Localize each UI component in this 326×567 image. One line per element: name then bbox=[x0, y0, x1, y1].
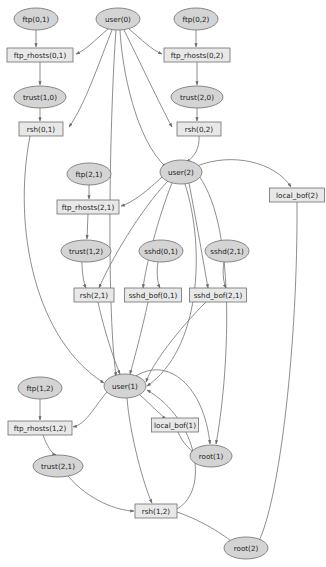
graph-edge bbox=[189, 183, 208, 288]
graph-node-trust_1_0[interactable]: trust(1,0) bbox=[14, 86, 66, 108]
graph-node-sshd_0_1[interactable]: sshd(0,1) bbox=[139, 240, 183, 262]
graph-node-ftp_2_1[interactable]: ftp(2,1) bbox=[67, 163, 111, 185]
node-label: sshd(2,1) bbox=[210, 247, 244, 256]
node-label: user(1) bbox=[112, 382, 138, 391]
graph-node-ftp_1_2[interactable]: ftp(1,2) bbox=[18, 377, 62, 399]
node-label: rsh(0,2) bbox=[185, 125, 213, 134]
graph-node-rsh_1_2[interactable]: rsh(1,2) bbox=[135, 504, 177, 518]
node-label: trust(1,2) bbox=[69, 247, 103, 256]
node-label: trust(2,1) bbox=[41, 462, 75, 471]
graph-node-local_bof_1[interactable]: local_bof(1) bbox=[152, 418, 199, 432]
graph-edge bbox=[68, 476, 134, 511]
graph-node-user_2[interactable]: user(2) bbox=[160, 160, 202, 184]
graph-edge bbox=[130, 302, 148, 374]
node-label: user(0) bbox=[105, 15, 131, 24]
graph-edge bbox=[82, 262, 86, 288]
node-label: ftp(1,2) bbox=[27, 384, 54, 393]
graph-edge bbox=[147, 184, 196, 386]
node-label: rsh(2,1) bbox=[80, 291, 108, 300]
graph-node-trust_1_2[interactable]: trust(1,2) bbox=[61, 240, 111, 262]
node-label: ftp_rhosts(1,2) bbox=[14, 424, 67, 433]
node-label: trust(2,0) bbox=[180, 93, 214, 102]
graph-node-trust_2_1[interactable]: trust(2,1) bbox=[33, 455, 83, 477]
graph-node-rsh_2_1[interactable]: rsh(2,1) bbox=[74, 288, 114, 302]
graph-node-sshd_bof_2_1[interactable]: sshd_bof(2,1) bbox=[190, 288, 247, 302]
graph-node-ftp_rhosts_1_2[interactable]: ftp_rhosts(1,2) bbox=[8, 421, 72, 435]
node-label: rsh(0,1) bbox=[27, 125, 55, 134]
graph-edge bbox=[87, 214, 88, 239]
graph-edge bbox=[258, 202, 297, 543]
node-label: root(1) bbox=[199, 452, 224, 461]
graph-node-rsh_0_2[interactable]: rsh(0,2) bbox=[177, 122, 221, 136]
node-label: root(2) bbox=[234, 544, 259, 553]
graph-edge bbox=[120, 30, 166, 167]
graph-edge bbox=[127, 398, 152, 503]
graph-edge bbox=[177, 512, 236, 545]
graph-node-ftp_0_1[interactable]: ftp(0,1) bbox=[14, 8, 58, 30]
graph-edge bbox=[157, 262, 160, 288]
node-label: trust(1,0) bbox=[23, 93, 57, 102]
node-label: sshd(0,1) bbox=[144, 247, 178, 256]
graph-node-ftp_rhosts_2_1[interactable]: ftp_rhosts(2,1) bbox=[57, 200, 119, 214]
node-label: local_bof(2) bbox=[276, 191, 318, 200]
node-label: ftp(0,2) bbox=[183, 15, 210, 24]
graph-node-trust_2_0[interactable]: trust(2,0) bbox=[171, 86, 223, 108]
graph-node-rsh_0_1[interactable]: rsh(0,1) bbox=[19, 122, 63, 136]
graph-edge bbox=[76, 29, 108, 54]
node-label: local_bof(1) bbox=[154, 421, 196, 430]
graph-edge bbox=[197, 160, 291, 187]
node-label: sshd_bof(2,1) bbox=[194, 291, 243, 300]
graph-edge bbox=[73, 392, 107, 427]
node-label: sshd_bof(0,1) bbox=[129, 291, 178, 300]
graph-node-user_1[interactable]: user(1) bbox=[104, 374, 146, 398]
graph-edge bbox=[139, 394, 166, 419]
attack-graph-canvas: ftp(0,1)user(0)ftp(0,2)ftp_rhosts(0,1)ft… bbox=[0, 0, 326, 567]
graph-node-ftp_0_2[interactable]: ftp(0,2) bbox=[174, 8, 218, 30]
graph-node-ftp_rhosts_0_2[interactable]: ftp_rhosts(0,2) bbox=[164, 48, 230, 62]
graph-node-sshd_2_1[interactable]: sshd(2,1) bbox=[205, 240, 249, 262]
graph-edge bbox=[136, 370, 210, 444]
graph-edge bbox=[98, 302, 120, 374]
node-label: rsh(1,2) bbox=[142, 507, 170, 516]
graph-edge bbox=[43, 435, 56, 455]
graph-edge bbox=[99, 181, 168, 288]
graph-node-root_2[interactable]: root(2) bbox=[224, 537, 268, 559]
node-label: ftp(2,1) bbox=[76, 170, 103, 179]
graph-edge bbox=[121, 177, 162, 206]
graph-node-ftp_rhosts_0_1[interactable]: ftp_rhosts(0,1) bbox=[7, 48, 73, 62]
node-label: ftp(0,1) bbox=[23, 15, 50, 24]
graph-node-user_0[interactable]: user(0) bbox=[96, 8, 140, 30]
node-label: user(2) bbox=[168, 168, 194, 177]
graph-node-root_1[interactable]: root(1) bbox=[190, 445, 232, 467]
graph-edge bbox=[186, 136, 199, 162]
graph-node-sshd_bof_0_1[interactable]: sshd_bof(0,1) bbox=[125, 288, 182, 302]
graph-node-local_bof_2[interactable]: local_bof(2) bbox=[270, 188, 325, 202]
graph-edge bbox=[199, 176, 227, 444]
node-label: ftp_rhosts(2,1) bbox=[62, 203, 115, 212]
node-label: ftp_rhosts(0,2) bbox=[171, 51, 224, 60]
node-label: ftp_rhosts(0,1) bbox=[14, 51, 67, 60]
